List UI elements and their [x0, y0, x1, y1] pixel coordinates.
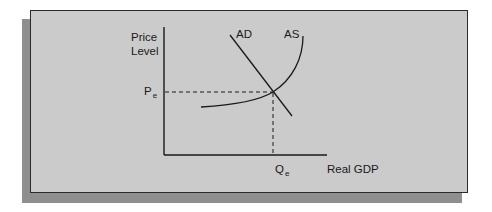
y-axis-label-line2: Level [131, 45, 159, 58]
quantity-letter: Q [275, 163, 284, 175]
as-curve [201, 36, 303, 107]
quantity-subscript: e [285, 169, 289, 178]
as-label: AS [284, 28, 299, 41]
equilibrium-price-label: Pe [144, 85, 157, 99]
x-axis-label: Real GDP [327, 163, 379, 176]
y-axis-label-line1: Price [131, 31, 157, 44]
ad-label: AD [236, 28, 252, 41]
ad-curve [230, 35, 292, 116]
price-subscript: e [153, 91, 157, 100]
equilibrium-quantity-label: Qe [275, 163, 289, 177]
price-letter: P [144, 85, 152, 97]
